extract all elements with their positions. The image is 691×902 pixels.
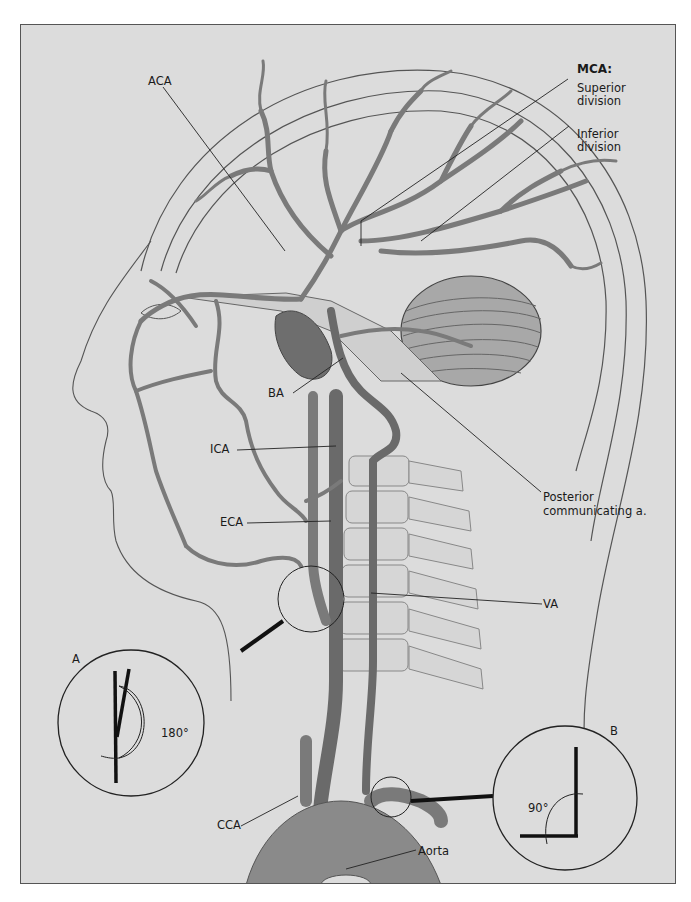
label-aca: ACA <box>148 75 172 88</box>
inset-a-angle: 180° <box>161 727 189 740</box>
label-cca: CCA <box>217 819 241 832</box>
label-ba: BA <box>268 387 284 400</box>
aortic-arch <box>246 801 441 884</box>
label-mca-heading: MCA: <box>577 63 612 76</box>
label-mca-inferior-2: division <box>577 141 621 154</box>
label-aorta: Aorta <box>418 845 449 858</box>
inset-b-angle: 90° <box>528 802 548 815</box>
label-ica: ICA <box>210 443 229 456</box>
label-eca: ECA <box>220 516 243 529</box>
inset-b-letter: B <box>610 725 618 738</box>
label-mca-superior-2: division <box>577 95 621 108</box>
inset-a <box>58 621 283 796</box>
cervical-spine <box>338 456 483 689</box>
label-pcomm-1: Posterior <box>543 491 594 504</box>
inset-a-letter: A <box>72 653 80 666</box>
anatomy-figure-panel: ACA MCA: Superior division Inferior divi… <box>20 24 676 884</box>
label-va: VA <box>543 598 558 611</box>
label-pcomm-2: communicating a. <box>543 505 647 518</box>
